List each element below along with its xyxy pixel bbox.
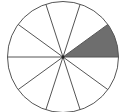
sector-divider-line [63, 57, 80, 110]
sector-divider-line [18, 24, 63, 57]
sector-divider-line [46, 4, 63, 57]
sector-divider-line [18, 57, 63, 90]
shaded-sectors [63, 24, 119, 57]
center-point [61, 55, 64, 58]
shaded-sector [63, 24, 119, 57]
sector-divider-line [63, 57, 108, 90]
sector-divider-line [46, 57, 63, 110]
fraction-circle-diagram [0, 0, 123, 112]
